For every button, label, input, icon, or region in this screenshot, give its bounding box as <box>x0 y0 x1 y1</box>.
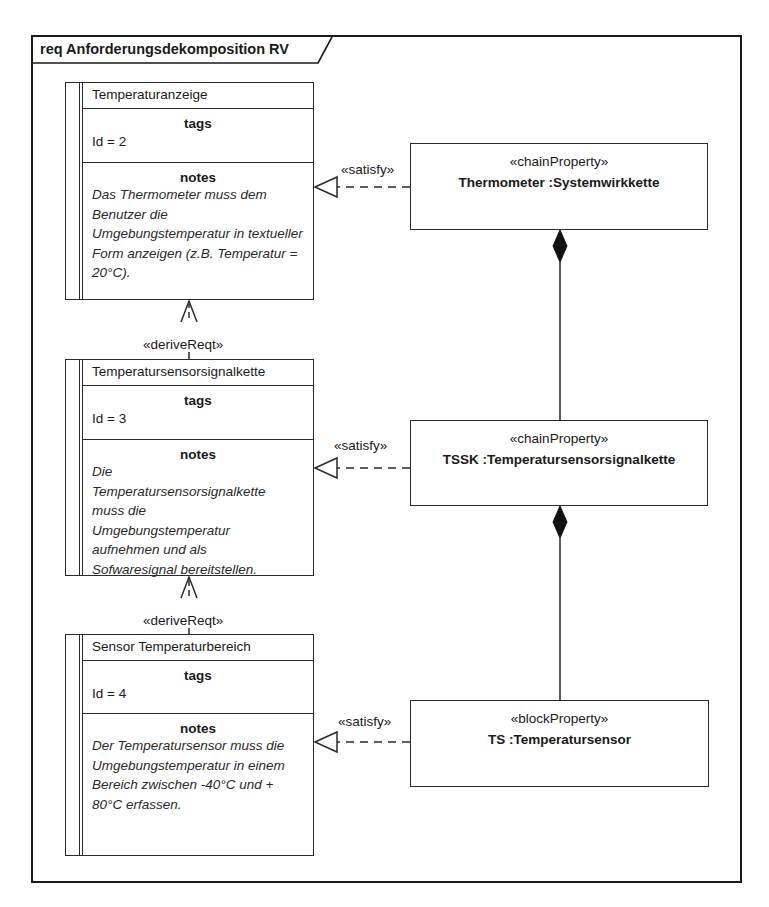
satisfy-connector-3[interactable] <box>315 732 410 752</box>
satisfy-connector-2[interactable] <box>315 458 410 478</box>
satisfy-label-1: «satisfy» <box>341 162 394 177</box>
composition-connector-2[interactable] <box>553 506 567 700</box>
derive-label-2: «deriveReqt» <box>143 613 223 628</box>
satisfy-label-3: «satisfy» <box>338 714 391 729</box>
derive-label-1: «deriveReqt» <box>143 337 223 352</box>
satisfy-connector-1[interactable] <box>315 177 410 197</box>
composition-connector-1[interactable] <box>553 230 567 420</box>
satisfy-label-2: «satisfy» <box>334 438 387 453</box>
connectors <box>0 0 769 907</box>
